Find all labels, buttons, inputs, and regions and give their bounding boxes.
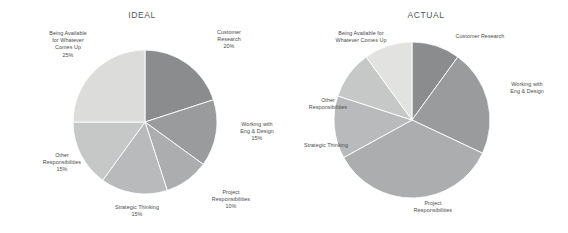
label-line-1: Customer Research — [456, 33, 505, 39]
label-line-2: Responsibilities — [414, 207, 452, 213]
label-line-2: Responsibilities — [309, 104, 347, 110]
label-line-1: Being Available for — [338, 30, 384, 36]
label-line-1: Project — [424, 200, 441, 206]
pie-label-eng-design-actual: Working with Eng & Design — [496, 81, 558, 95]
pie-chart-actual — [334, 42, 490, 198]
label-line-1: Other — [321, 97, 335, 103]
label-line-2: Responsibilities — [212, 196, 250, 202]
label-line-1: Working with — [511, 81, 542, 87]
pie-label-strategic-thinking-actual: Strategic Thinking — [290, 142, 362, 149]
chart-panel-ideal: IDEAL Being Available for Whatever Comes… — [0, 0, 284, 233]
label-percent: 20% — [186, 43, 272, 50]
label-line-2: for Whatever — [52, 37, 83, 43]
label-line-2: Responsibilities — [43, 159, 81, 165]
label-line-1: Project — [222, 189, 239, 195]
chart-title-actual: ACTUAL — [284, 10, 568, 20]
label-percent: 15% — [224, 135, 290, 142]
pie-label-strategic-thinking-ideal: Strategic Thinking 15% — [94, 204, 180, 218]
label-line-1: Strategic Thinking — [304, 142, 348, 148]
label-line-3: Comes Up — [55, 44, 81, 50]
pie-label-being-available-actual: Being Available for Whatever Comes Up — [320, 30, 402, 44]
label-percent: 15% — [24, 166, 100, 173]
label-line-2: Whatever Comes Up — [336, 37, 387, 43]
pie-label-other-responsibilities-actual: Other Responsibilities — [292, 97, 364, 111]
pie-label-project-responsibilities-actual: Project Responsibilities — [392, 200, 474, 214]
label-line-2: Research — [217, 36, 240, 42]
label-percent: 25% — [16, 52, 120, 59]
label-line-2: Eng & Design — [240, 128, 274, 134]
label-line-1: Being Available — [49, 30, 87, 36]
label-line-1: Other — [55, 152, 69, 158]
pie-label-eng-design-ideal: Working with Eng & Design 15% — [224, 121, 290, 143]
pie-slice-being-available[interactable] — [73, 50, 145, 122]
pie-label-customer-research-actual: Customer Research — [440, 33, 520, 40]
pie-label-customer-research-ideal: Customer Research 20% — [186, 29, 272, 51]
label-percent: 10% — [192, 203, 270, 210]
pie-slices-actual — [334, 42, 490, 198]
label-line-1: Working with — [241, 121, 272, 127]
pie-label-being-available-ideal: Being Available for Whatever Comes Up 25… — [16, 30, 120, 59]
chart-title-ideal: IDEAL — [0, 10, 284, 20]
figure-canvas: IDEAL Being Available for Whatever Comes… — [0, 0, 568, 233]
pie-label-other-responsibilities-ideal: Other Responsibilities 15% — [24, 152, 100, 174]
label-line-2: Eng & Design — [510, 88, 544, 94]
label-line-1: Customer — [217, 29, 241, 35]
label-line-1: Strategic Thinking — [115, 204, 159, 210]
label-percent: 15% — [94, 211, 180, 218]
pie-label-project-responsibilities-ideal: Project Responsibilities 10% — [192, 189, 270, 211]
